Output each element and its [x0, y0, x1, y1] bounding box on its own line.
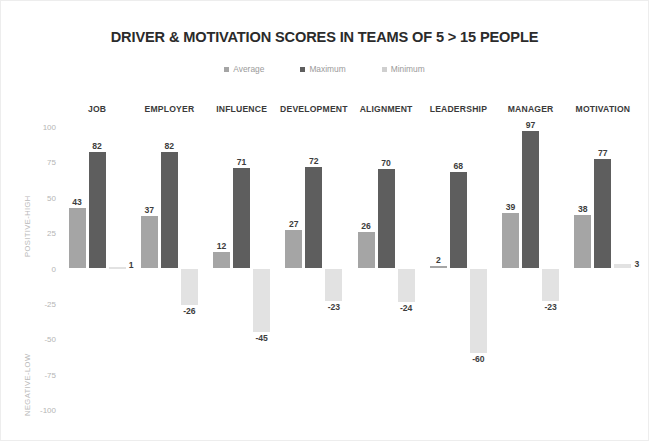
bar-value-label: 72	[309, 156, 319, 166]
y-axis-tick-label: 25	[47, 229, 56, 238]
bar-minimum[interactable]: 3	[614, 264, 631, 268]
bar-value-label: -60	[472, 354, 484, 364]
category-label: MANAGER	[508, 104, 554, 114]
bar-value-label: 37	[145, 205, 155, 215]
bar-minimum[interactable]: -24	[398, 269, 415, 303]
bar-value-label: 27	[289, 219, 299, 229]
bar-value-label: -26	[183, 306, 195, 316]
bar-minimum[interactable]: -60	[470, 269, 487, 354]
bar-value-label: 77	[598, 148, 608, 158]
legend-swatch-icon	[382, 67, 387, 72]
bar-minimum[interactable]: -23	[542, 269, 559, 302]
bar-maximum[interactable]: 71	[233, 168, 250, 269]
y-axis-tick-label: 100	[43, 122, 56, 131]
y-axis-title-positive: POSITIVE-HIGH	[23, 195, 32, 257]
bar-group: MOTIVATION38773	[567, 121, 639, 416]
bar-average[interactable]: 37	[141, 216, 158, 268]
legend-swatch-icon	[300, 67, 305, 72]
bar-group: JOB43821	[61, 121, 133, 416]
bar-value-label: -45	[255, 333, 267, 343]
bar-maximum[interactable]: 70	[378, 169, 395, 268]
legend-item-average[interactable]: Average	[224, 64, 264, 74]
category-label: INFLUENCE	[216, 104, 267, 114]
bar-group: MANAGER3997-23	[495, 121, 567, 416]
bar-maximum[interactable]: 68	[450, 172, 467, 268]
plot-area: POSITIVE-HIGH NEGATIVE-LOW 1007550250-25…	[61, 121, 639, 416]
bar-group: EMPLOYER3782-26	[133, 121, 205, 416]
category-label: DEVELOPMENT	[280, 104, 348, 114]
legend-label: Average	[233, 64, 264, 74]
bar-average[interactable]: 43	[69, 208, 86, 269]
legend-item-minimum[interactable]: Minimum	[382, 64, 425, 74]
bar-minimum[interactable]: -23	[325, 269, 342, 302]
bar-group: DEVELOPMENT2772-23	[278, 121, 350, 416]
legend-item-maximum[interactable]: Maximum	[300, 64, 345, 74]
bar-average[interactable]: 27	[285, 230, 302, 268]
y-axis-tick-label: 75	[47, 158, 56, 167]
bar-average[interactable]: 12	[213, 252, 230, 269]
bar-value-label: 26	[361, 221, 371, 231]
bar-value-label: 71	[237, 157, 247, 167]
bar-average[interactable]: 39	[502, 213, 519, 268]
bar-value-label: -24	[400, 303, 412, 313]
bar-average[interactable]: 26	[358, 232, 375, 269]
bar-minimum[interactable]: -26	[181, 269, 198, 306]
bar-value-label: 38	[578, 204, 588, 214]
legend-label: Maximum	[309, 64, 345, 74]
bar-value-label: 12	[217, 241, 227, 251]
bar-value-label: -23	[544, 302, 556, 312]
bar-minimum[interactable]: -45	[253, 269, 270, 333]
bar-value-label: 82	[165, 141, 175, 151]
chart-title: DRIVER & MOTIVATION SCORES IN TEAMS OF 5…	[1, 29, 648, 45]
y-axis-tick-label: -50	[44, 335, 56, 344]
y-axis-tick-label: 50	[47, 193, 56, 202]
bar-value-label: 3	[634, 259, 639, 269]
chart-legend: AverageMaximumMinimum	[1, 64, 648, 74]
category-label: ALIGNMENT	[360, 104, 413, 114]
bar-maximum[interactable]: 82	[161, 152, 178, 268]
bar-maximum[interactable]: 97	[522, 131, 539, 268]
bar-maximum[interactable]: 77	[594, 159, 611, 268]
category-label: EMPLOYER	[144, 104, 194, 114]
bar-average[interactable]: 38	[574, 215, 591, 269]
bar-value-label: 43	[72, 197, 82, 207]
y-axis-tick-label: 0	[52, 264, 56, 273]
bar-group: LEADERSHIP268-60	[422, 121, 494, 416]
chart-container: DRIVER & MOTIVATION SCORES IN TEAMS OF 5…	[0, 0, 649, 441]
category-label: MOTIVATION	[576, 104, 631, 114]
bar-value-label: 82	[92, 141, 102, 151]
bar-group: ALIGNMENT2670-24	[350, 121, 422, 416]
bar-value-label: 68	[454, 161, 464, 171]
bar-value-label: -23	[328, 302, 340, 312]
bar-minimum[interactable]: 1	[109, 267, 126, 269]
legend-swatch-icon	[224, 67, 229, 72]
y-axis-title-negative: NEGATIVE-LOW	[23, 354, 32, 416]
bar-group: INFLUENCE1271-45	[206, 121, 278, 416]
bar-average[interactable]: 2	[430, 266, 447, 269]
bar-maximum[interactable]: 72	[305, 167, 322, 269]
category-label: LEADERSHIP	[430, 104, 487, 114]
y-axis-tick-label: -75	[44, 370, 56, 379]
bar-maximum[interactable]: 82	[89, 152, 106, 268]
category-label: JOB	[88, 104, 106, 114]
y-axis-tick-label: -100	[40, 406, 56, 415]
bar-value-label: 97	[526, 120, 536, 130]
bar-value-label: 2	[436, 255, 441, 265]
legend-label: Minimum	[391, 64, 425, 74]
bar-value-label: 70	[381, 158, 391, 168]
y-axis-tick-label: -25	[44, 299, 56, 308]
bar-value-label: 39	[506, 202, 516, 212]
